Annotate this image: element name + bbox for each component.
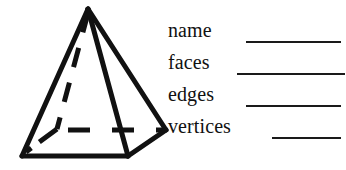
- answer-fields: name faces edges vertices: [168, 0, 346, 170]
- field-row-vertices: vertices: [168, 116, 346, 147]
- worksheet-page: name faces edges vertices: [0, 0, 346, 170]
- edge-apex-to-front-right-base: [88, 9, 128, 156]
- field-blank-faces[interactable]: [237, 73, 345, 75]
- field-label-edges: edges: [168, 84, 214, 104]
- edge-apex-to-front-left-base: [22, 9, 88, 156]
- pyramid-figure: [0, 0, 180, 170]
- edge-front-right-base-to-right-back-base: [128, 130, 166, 156]
- field-row-faces: faces: [168, 52, 346, 83]
- square-pyramid-diagram: [0, 0, 180, 170]
- field-blank-name[interactable]: [246, 41, 341, 43]
- field-blank-vertices[interactable]: [272, 137, 341, 139]
- field-label-vertices: vertices: [168, 116, 231, 136]
- field-row-name: name: [168, 20, 346, 51]
- field-label-name: name: [168, 20, 212, 40]
- field-label-faces: faces: [168, 52, 210, 72]
- field-blank-edges[interactable]: [246, 105, 341, 107]
- field-row-edges: edges: [168, 84, 346, 115]
- edge-apex-to-right-back-base: [88, 9, 166, 130]
